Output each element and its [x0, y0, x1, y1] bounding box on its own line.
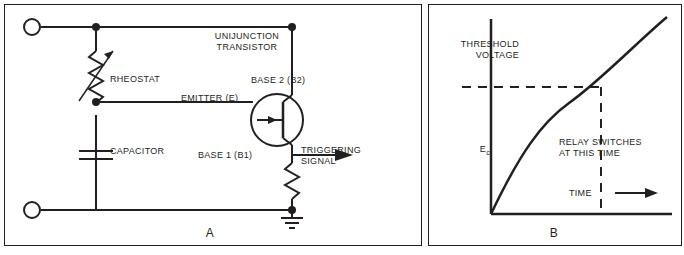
label-ec-axis: Ec: [463, 133, 490, 169]
node-top-left: [92, 23, 100, 31]
time-arrowhead: [645, 188, 658, 198]
panel-b-caption: B: [494, 228, 614, 239]
label-time-axis: TIME: [569, 188, 592, 199]
node-top-right: [288, 23, 296, 31]
label-base-2: BASE 2 (B2): [251, 75, 305, 86]
label-unijunction-transistor: UNIJUNCTION TRANSISTOR: [193, 31, 301, 53]
label-capacitor: CAPACITOR: [110, 146, 164, 157]
base1-resistor: [285, 163, 299, 199]
label-threshold-voltage: THRESHOLD VOLTAGE: [419, 39, 519, 61]
label-relay-switches: RELAY SWITCHES AT THIS TIME: [559, 137, 669, 159]
ujt-emitter-arrow: [268, 116, 277, 124]
terminal-bottom-left: [24, 202, 40, 218]
label-ec-subscript: c: [486, 149, 490, 156]
panel-b: THRESHOLD VOLTAGE Ec RELAY SWITCHES AT T…: [428, 4, 682, 246]
panel-a-caption: A: [150, 228, 270, 239]
rheostat-arrowhead: [104, 51, 113, 59]
label-emitter: EMITTER (E): [181, 93, 238, 104]
label-base-1: BASE 1 (B1): [198, 150, 252, 161]
terminal-top-left: [24, 19, 40, 35]
label-triggering-signal: TRIGGERING SIGNAL: [301, 145, 393, 167]
panel-a: UNIJUNCTION TRANSISTOR RHEOSTAT CAPACITO…: [4, 4, 422, 246]
figure-root: UNIJUNCTION TRANSISTOR RHEOSTAT CAPACITO…: [0, 0, 684, 255]
label-rheostat: RHEOSTAT: [110, 74, 160, 85]
